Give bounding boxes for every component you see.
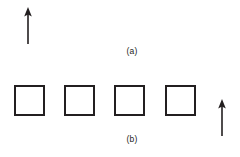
square-shape: [64, 85, 95, 116]
square-shape: [114, 85, 145, 116]
panel-b: (b): [0, 0, 240, 157]
square-shape: [14, 85, 45, 116]
panel-b-caption: (b): [106, 134, 158, 144]
figure-canvas: (a) (b): [0, 0, 240, 157]
square-shape: [165, 85, 196, 116]
upward-arrow-icon: [210, 96, 234, 140]
